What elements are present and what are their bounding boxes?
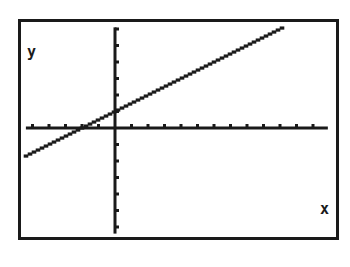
y-tick <box>115 44 119 47</box>
y-tick <box>115 61 119 64</box>
x-tick <box>163 124 166 128</box>
y-tick <box>115 77 119 80</box>
y-tick <box>115 94 119 97</box>
x-tick <box>262 124 265 128</box>
x-tick <box>312 124 315 128</box>
graph-screen: y x <box>0 0 350 267</box>
x-tick <box>31 124 34 128</box>
x-tick <box>196 124 199 128</box>
x-tick <box>279 124 282 128</box>
y-tick <box>115 226 119 229</box>
y-tick <box>115 193 119 196</box>
y-axis-label: y <box>27 43 36 61</box>
x-tick <box>97 124 100 128</box>
x-tick <box>147 124 150 128</box>
x-tick <box>213 124 216 128</box>
plot-line <box>24 26 285 157</box>
y-tick <box>115 209 119 212</box>
x-axis <box>26 124 328 128</box>
x-tick <box>295 124 298 128</box>
x-tick <box>64 124 67 128</box>
x-tick <box>229 124 232 128</box>
x-tick <box>180 124 183 128</box>
y-tick <box>115 28 119 31</box>
y-axis <box>115 27 119 233</box>
x-tick <box>48 124 51 128</box>
x-tick <box>246 124 249 128</box>
x-tick <box>130 124 133 128</box>
y-tick <box>115 176 119 179</box>
y-tick <box>115 143 119 146</box>
x-axis-label: x <box>320 200 329 218</box>
y-tick <box>115 160 119 163</box>
